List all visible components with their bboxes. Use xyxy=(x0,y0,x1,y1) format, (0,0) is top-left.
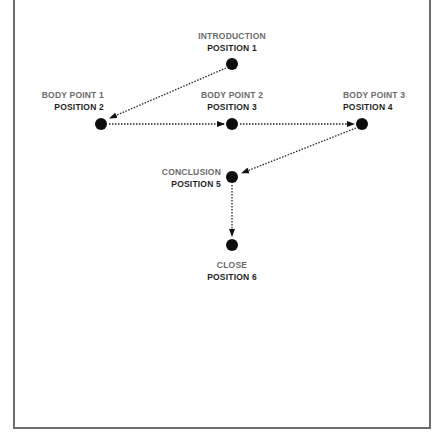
node-close-dot xyxy=(226,239,238,251)
node-body-point-3-dot xyxy=(356,118,368,130)
node-title: CONCLUSION xyxy=(162,166,221,178)
node-position: POSITION 6 xyxy=(207,271,257,283)
node-title: BODY POINT 2 xyxy=(201,89,263,101)
node-position: POSITION 2 xyxy=(42,101,104,113)
node-title: BODY POINT 3 xyxy=(343,89,405,101)
edges-layer xyxy=(0,0,447,437)
label-conclusion: CONCLUSION POSITION 5 xyxy=(162,166,221,190)
node-position: POSITION 3 xyxy=(201,101,263,113)
node-conclusion-dot xyxy=(226,171,238,183)
node-body-point-1-dot xyxy=(95,118,107,130)
node-title: CLOSE xyxy=(207,259,257,271)
label-close: CLOSE POSITION 6 xyxy=(207,259,257,283)
edge-body3-to-conclusion xyxy=(242,128,356,173)
node-introduction-dot xyxy=(226,58,238,70)
label-body-point-2: BODY POINT 2 POSITION 3 xyxy=(201,89,263,113)
node-position: POSITION 1 xyxy=(198,42,266,54)
node-title: BODY POINT 1 xyxy=(42,89,104,101)
label-introduction: INTRODUCTION POSITION 1 xyxy=(198,30,266,54)
node-position: POSITION 5 xyxy=(162,178,221,190)
label-body-point-1: BODY POINT 1 POSITION 2 xyxy=(42,89,104,113)
node-position: POSITION 4 xyxy=(343,101,405,113)
node-title: INTRODUCTION xyxy=(198,30,266,42)
label-body-point-3: BODY POINT 3 POSITION 4 xyxy=(343,89,405,113)
node-body-point-2-dot xyxy=(226,118,238,130)
